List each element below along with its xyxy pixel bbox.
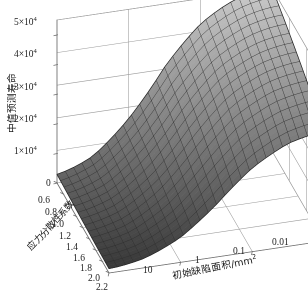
z-axis-title: 中值预测寿命 (4, 72, 18, 134)
z-tick-label: 5×104 (14, 18, 37, 28)
z-tick-label: 0 (46, 179, 51, 189)
z-tick-label: 4×104 (14, 50, 37, 60)
z-tick-label: 1×104 (14, 147, 37, 157)
x-tick-label: 0.01 (272, 238, 289, 248)
y-tick-label: 1.4 (66, 243, 78, 253)
y-tick-label: 2.2 (96, 283, 108, 293)
x-tick-label: 10 (143, 266, 153, 276)
y-tick-label: 1.2 (59, 232, 71, 242)
y-tick-label: 0.6 (38, 196, 50, 206)
